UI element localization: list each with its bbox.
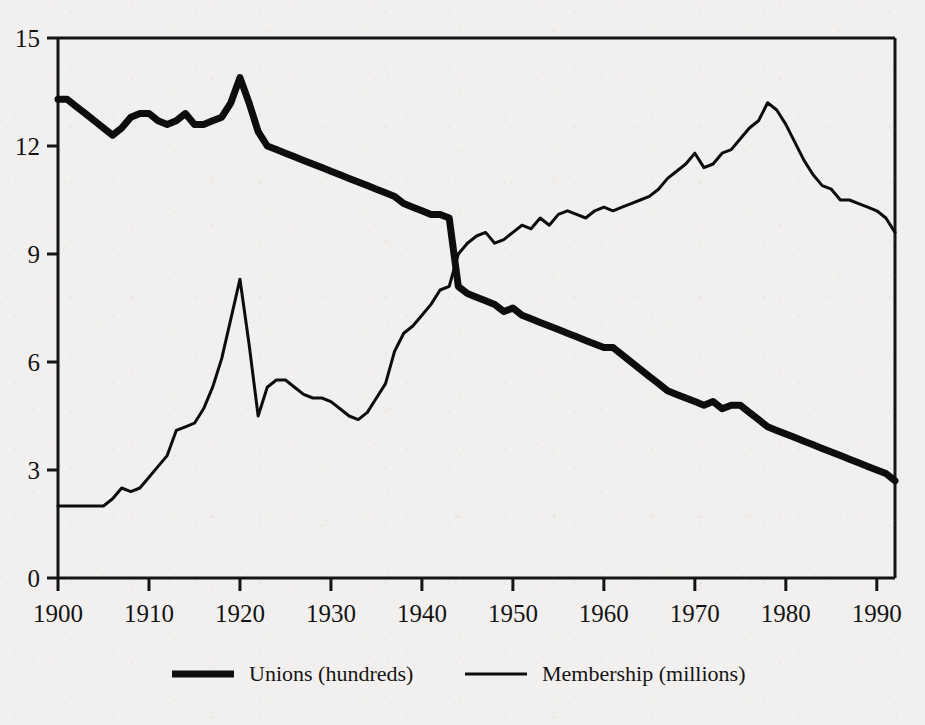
x-tick-label: 1900 bbox=[33, 600, 83, 627]
y-tick-label: 15 bbox=[15, 25, 40, 52]
y-tick-label: 0 bbox=[28, 565, 41, 592]
x-tick-label: 1950 bbox=[488, 600, 538, 627]
series-line-1 bbox=[58, 78, 895, 481]
y-tick-label: 3 bbox=[28, 457, 41, 484]
x-tick-label: 1990 bbox=[852, 600, 902, 627]
y-axis-tick-labels: 03691215 bbox=[15, 25, 40, 592]
legend-label-1: Unions (hundreds) bbox=[249, 661, 413, 686]
chart-canvas: 03691215 1900191019201930194019501960197… bbox=[0, 0, 925, 725]
x-tick-label: 1970 bbox=[670, 600, 720, 627]
x-axis-ticks bbox=[58, 578, 877, 591]
line-chart: 03691215 1900191019201930194019501960197… bbox=[0, 0, 925, 725]
y-tick-label: 9 bbox=[28, 241, 41, 268]
x-tick-label: 1980 bbox=[761, 600, 811, 627]
x-tick-label: 1910 bbox=[124, 600, 174, 627]
data-series-layer bbox=[58, 78, 895, 506]
x-tick-label: 1920 bbox=[215, 600, 265, 627]
x-tick-label: 1930 bbox=[306, 600, 356, 627]
chart-legend: Unions (hundreds)Membership (millions) bbox=[172, 661, 745, 686]
y-tick-label: 6 bbox=[28, 349, 41, 376]
y-axis-ticks bbox=[47, 38, 58, 578]
y-tick-label: 12 bbox=[15, 133, 40, 160]
x-tick-label: 1960 bbox=[579, 600, 629, 627]
series-line-2 bbox=[58, 103, 895, 506]
legend-label-2: Membership (millions) bbox=[542, 661, 745, 686]
x-tick-label: 1940 bbox=[397, 600, 447, 627]
x-axis-tick-labels: 1900191019201930194019501960197019801990 bbox=[33, 600, 902, 627]
